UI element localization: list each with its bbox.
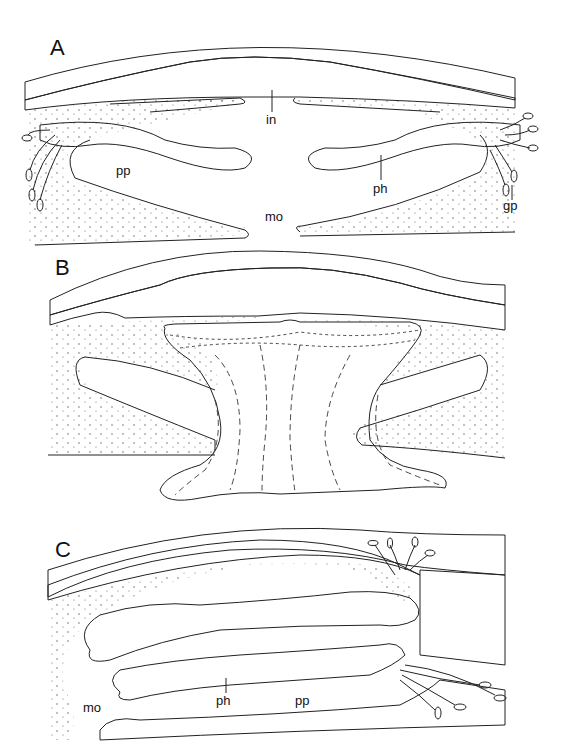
panel-c-letter: C bbox=[55, 537, 71, 562]
label-ph: ph bbox=[373, 181, 387, 196]
pharynx-lamella-upper bbox=[84, 592, 419, 662]
panel-b-letter: B bbox=[55, 255, 70, 280]
epidermis-layer-b bbox=[50, 251, 505, 315]
panel-c: C mo ph pp bbox=[48, 528, 506, 740]
label-pp-c: pp bbox=[295, 693, 309, 708]
label-mo-a: mo bbox=[265, 209, 283, 224]
pharynx-lamella-lower bbox=[113, 644, 406, 700]
panel-a-letter: A bbox=[50, 35, 65, 60]
dense-layer-b bbox=[50, 268, 505, 330]
figure-canvas: A bbox=[0, 0, 562, 751]
dense-block-c bbox=[420, 570, 505, 665]
epidermis-layer bbox=[25, 47, 515, 100]
panel-b: B bbox=[48, 251, 505, 500]
gland-tubes-right-c bbox=[400, 665, 506, 719]
label-gp: gp bbox=[503, 198, 517, 213]
label-pp-left: pp bbox=[116, 163, 130, 178]
panel-a: A bbox=[22, 35, 538, 245]
label-in: in bbox=[266, 112, 276, 127]
label-mo-c: mo bbox=[83, 700, 101, 715]
label-ph-c: ph bbox=[216, 693, 230, 708]
